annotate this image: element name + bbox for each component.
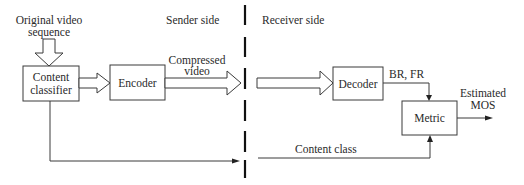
source-label-line2: sequence (28, 26, 70, 39)
decoder-label: Decoder (339, 78, 378, 90)
estimated-mos-label-line2: MOS (471, 99, 496, 111)
br-fr-connector (383, 83, 429, 96)
sender-side-label: Sender side (166, 14, 219, 26)
metric-label: Metric (414, 112, 445, 124)
content-class-sender-arrowhead-icon (232, 159, 240, 164)
content-classifier-label-line1: Content (33, 71, 70, 83)
source-input-arrow-icon (35, 39, 63, 66)
content-class-receiver-arrowhead-icon (427, 135, 433, 142)
br-fr-label: BR, FR (389, 68, 424, 81)
br-fr-arrowhead-icon (426, 95, 432, 101)
encoder-label: Encoder (118, 77, 156, 89)
classifier-to-encoder-arrow-icon (79, 73, 110, 93)
content-class-connector-sender (50, 101, 233, 161)
compressed-video-label-line2: video (184, 65, 210, 77)
received-video-arrow-icon (257, 71, 333, 95)
content-classifier-label-line2: classifier (30, 84, 72, 96)
content-class-label: Content class (295, 143, 357, 155)
video-quality-diagram: Sender side Receiver side Original video… (0, 0, 524, 185)
receiver-side-label: Receiver side (262, 14, 324, 26)
mos-output-arrowhead-icon (485, 116, 493, 121)
estimated-mos-label-line1: Estimated (460, 87, 506, 99)
